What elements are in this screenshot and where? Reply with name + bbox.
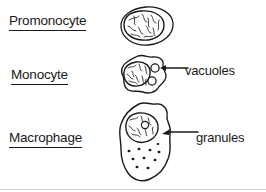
diagram-canvas: Promonocyte	[0, 0, 266, 192]
granule-dots	[128, 143, 161, 169]
leader-arrow-icon	[160, 124, 200, 140]
row-label-promonocyte-text: Promonocyte	[9, 14, 86, 31]
callout-granules-text: granules	[196, 130, 244, 145]
row-label-monocyte-text: Monocyte	[11, 68, 68, 85]
callout-label-granules: granules	[196, 131, 244, 144]
vacuole-circle-lower	[148, 77, 156, 85]
row-label-monocyte: Monocyte	[11, 68, 68, 85]
callout-label-vacuoles: vacuoles	[185, 64, 235, 77]
callout-vacuoles-text: vacuoles	[185, 63, 235, 78]
bottom-divider	[0, 189, 266, 190]
row-label-macrophage-text: Macrophage	[9, 131, 82, 148]
row-label-promonocyte: Promonocyte	[9, 14, 86, 31]
nucleolus-circle	[141, 121, 148, 128]
macrophage-cell-icon	[112, 100, 184, 188]
row-label-macrophage: Macrophage	[9, 131, 82, 148]
promonocyte-cell-icon	[116, 4, 178, 48]
